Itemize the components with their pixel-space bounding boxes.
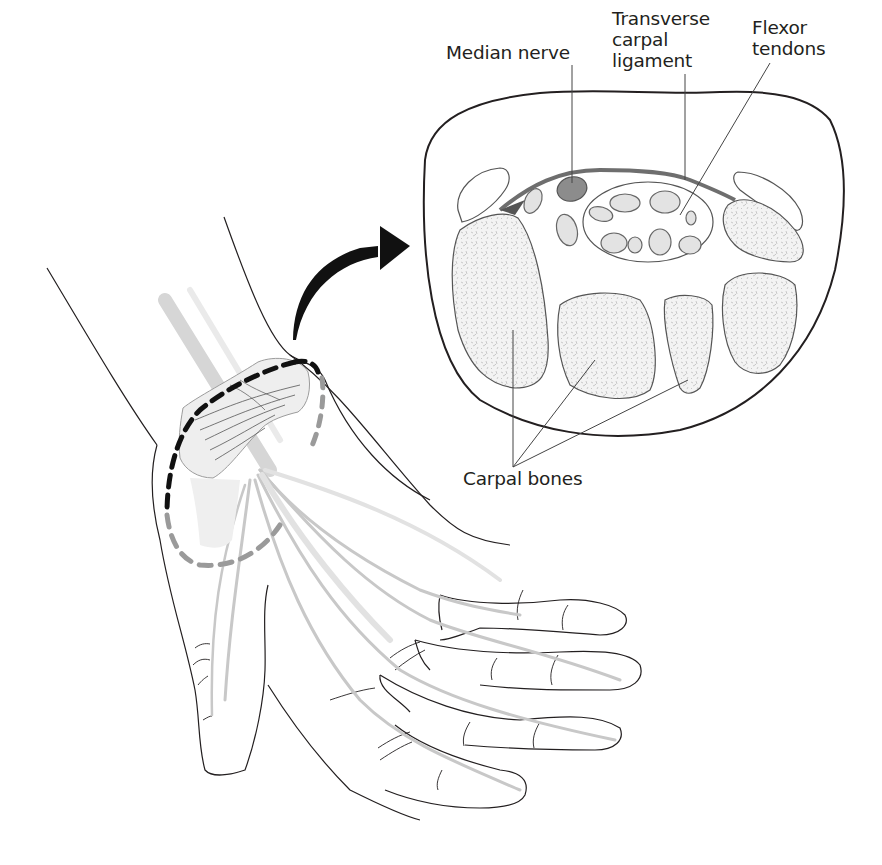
carpal-tunnel-cross-section [424,91,844,436]
label-line: ligament [612,50,710,71]
label-line: tendons [752,38,825,59]
label-median-nerve-text: Median nerve [446,42,570,63]
carpal-tunnel-illustration [0,0,882,865]
label-median-nerve: Median nerve [446,42,570,63]
label-transverse-carpal-ligament: Transverse carpal ligament [612,8,710,71]
label-flexor-tendons: Flexor tendons [752,17,825,59]
label-line: Flexor [752,17,825,38]
curved-arrow-icon [293,226,410,340]
label-line: Transverse [612,8,710,29]
carpal-bone-2 [558,293,656,398]
forearm-outline-left [47,268,157,445]
label-line: carpal [612,29,710,50]
label-carpal-bones: Carpal bones [463,468,582,489]
label-carpal-bones-text: Carpal bones [463,468,582,489]
